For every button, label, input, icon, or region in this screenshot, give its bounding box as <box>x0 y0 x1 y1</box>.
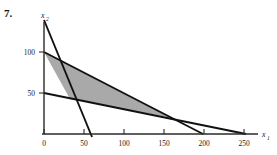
x-tick-label-250: 250 <box>238 139 250 148</box>
x-tick-label-0: 0 <box>42 139 46 148</box>
x-tick-label-150: 150 <box>158 139 170 148</box>
x-tick-label-50: 50 <box>80 139 88 148</box>
lower-constraint-line <box>44 93 246 134</box>
x-tick-label-100: 100 <box>118 139 130 148</box>
linear-program-plot: 0 50 100 150 200 250 50 100 x 1 x 2 <box>0 0 277 155</box>
figure-container: 7. 0 50 100 150 200 250 50 100 <box>0 0 277 155</box>
y-axis-label: x <box>40 11 45 20</box>
y-tick-label-50: 50 <box>28 89 36 98</box>
x-axis-label-subscript: 1 <box>267 135 270 141</box>
x-axis-label: x <box>261 130 266 139</box>
y-tick-label-100: 100 <box>24 48 36 57</box>
x-tick-label-200: 200 <box>198 139 210 148</box>
y-axis-label-subscript: 2 <box>46 16 49 22</box>
